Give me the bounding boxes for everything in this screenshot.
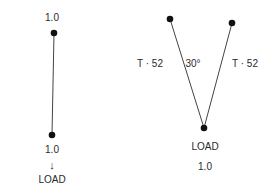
diagram-canvas	[0, 0, 271, 191]
right-anchor-dot	[229, 20, 236, 27]
right-tension-label: T · 52	[232, 58, 258, 70]
single-rope-diagram	[49, 30, 58, 139]
vertical-rope	[52, 33, 54, 135]
bottom-load-dot	[49, 132, 56, 139]
load-label-right: LOAD	[191, 141, 218, 153]
load-label-left: LOAD	[38, 174, 65, 186]
top-anchor-dot	[51, 30, 58, 37]
right-rope	[204, 23, 232, 128]
bottom-load-value: 1.0	[45, 144, 59, 156]
load-value-right: 1.0	[198, 161, 212, 173]
load-junction-dot	[201, 125, 208, 132]
down-arrow-icon: ↓	[49, 159, 55, 171]
v-rope-diagram	[167, 16, 236, 132]
left-anchor-dot	[167, 16, 174, 23]
left-tension-label: T · 52	[137, 58, 163, 70]
angle-label: 30°	[185, 58, 200, 70]
top-load-value: 1.0	[45, 12, 59, 24]
left-rope	[170, 19, 204, 128]
